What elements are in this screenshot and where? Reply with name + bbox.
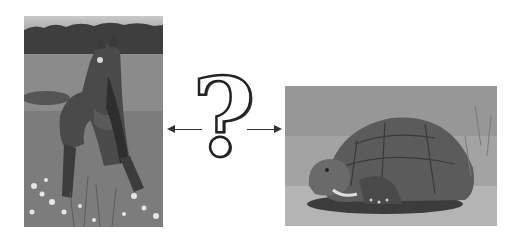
right-arrow — [247, 129, 279, 130]
tortoise-image — [285, 86, 497, 226]
tortoise-photo — [285, 86, 497, 226]
horse-image — [24, 16, 163, 227]
horse-photo — [24, 16, 163, 227]
question-mark-icon: ? — [192, 62, 252, 172]
